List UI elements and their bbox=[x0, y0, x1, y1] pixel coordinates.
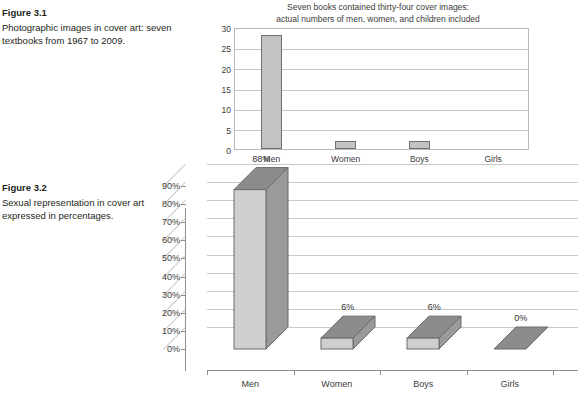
chart1-title-line1: Seven books contained thirty-four cover … bbox=[198, 2, 558, 14]
chart2-y-tick-mark bbox=[181, 222, 186, 223]
chart2-y-tick-mark bbox=[181, 277, 186, 278]
chart2-y-tick-label: 60% bbox=[162, 235, 180, 245]
chart2-y-tick-mark bbox=[181, 331, 186, 332]
chart2-x-tick-mark bbox=[467, 370, 468, 375]
chart1-bar-women bbox=[335, 141, 356, 149]
chart2-x-tick-mark bbox=[553, 370, 554, 375]
chart2-x-tick-mark bbox=[294, 370, 295, 375]
chart2-data-label-boys: 6% bbox=[428, 302, 441, 312]
chart2-data-label-girls: 0% bbox=[514, 313, 527, 323]
chart1-y-tick-label: 25 bbox=[222, 44, 231, 54]
chart2-y-tick-label: 70% bbox=[162, 217, 180, 227]
chart2-y-tick-label: 50% bbox=[162, 253, 180, 263]
chart2-bar-top-face bbox=[494, 327, 548, 349]
chart2-y-tick-mark bbox=[181, 258, 186, 259]
chart2-y-tick-mark bbox=[181, 240, 186, 241]
chart1-x-label-women: Women bbox=[331, 154, 360, 164]
chart-percentages: 0%10%20%30%40%50%60%70%80%90%88%Men6%Wom… bbox=[140, 178, 569, 398]
chart1-y-tick-label: 0 bbox=[226, 146, 231, 156]
chart2-y-tick-label: 80% bbox=[162, 199, 180, 209]
chart1-y-tick-label: 10 bbox=[222, 105, 231, 115]
chart2-y-tick-label: 30% bbox=[162, 290, 180, 300]
chart2-y-tick-label: 0% bbox=[167, 344, 180, 354]
chart2-x-label-women: Women bbox=[321, 379, 352, 389]
chart2-x-tick-mark bbox=[380, 370, 381, 375]
chart2-data-label-women: 6% bbox=[341, 302, 354, 312]
chart1-y-tick-label: 30 bbox=[222, 24, 231, 34]
chart2-y-tick-mark bbox=[181, 204, 186, 205]
chart1-x-label-boys: Boys bbox=[410, 154, 429, 164]
chart2-x-tick-mark bbox=[207, 370, 208, 375]
chart2-x-label-boys: Boys bbox=[413, 379, 433, 389]
chart1-y-tick-label: 20 bbox=[222, 65, 231, 75]
chart2-bar-side-face bbox=[266, 168, 288, 349]
chart2-y-tick-label: 10% bbox=[162, 326, 180, 336]
chart2-y-tick-mark bbox=[181, 295, 186, 296]
chart2-y-tick-label: 40% bbox=[162, 272, 180, 282]
chart2-plot-area: 0%10%20%30%40%50%60%70%80%90%88%Men6%Wom… bbox=[185, 186, 553, 371]
chart1-y-tick-label: 5 bbox=[226, 126, 231, 136]
chart1-bar-boys bbox=[409, 141, 430, 149]
chart2-data-label-men: 88% bbox=[252, 154, 270, 164]
chart2-bar-boys bbox=[407, 186, 461, 371]
chart2-x-label-girls: Girls bbox=[501, 379, 520, 389]
chart2-y-tick-mark bbox=[181, 313, 186, 314]
chart2-bar-girls bbox=[494, 186, 548, 371]
chart2-y-tick-mark bbox=[181, 186, 186, 187]
chart2-x-label-men: Men bbox=[241, 379, 259, 389]
chart2-bar-front-face bbox=[407, 338, 439, 349]
chart1-y-tick-label: 15 bbox=[222, 85, 231, 95]
figure-3-1-caption: Figure 3.1 Photographic images in cover … bbox=[2, 6, 172, 48]
chart1-plot-area: 051015202530MenWomenBoysGirls bbox=[234, 28, 529, 150]
chart-actual-numbers: Seven books contained thirty-four cover … bbox=[198, 2, 558, 170]
chart2-bar-front-face bbox=[234, 190, 266, 349]
chart2-bar-men bbox=[234, 186, 288, 371]
chart2-y-axis bbox=[185, 208, 186, 371]
chart1-bar-men bbox=[261, 35, 282, 149]
chart2-y-tick-label: 20% bbox=[162, 308, 180, 318]
chart2-gridline bbox=[207, 164, 578, 165]
chart2-y-tick-mark bbox=[181, 349, 186, 350]
chart1-title: Seven books contained thirty-four cover … bbox=[198, 2, 558, 25]
chart2-bar-women bbox=[321, 186, 375, 371]
chart2-bar-front-face bbox=[321, 338, 353, 349]
chart2-y-tick-label: 90% bbox=[162, 181, 180, 191]
figure-3-1-text: Photographic images in cover art: seven … bbox=[2, 21, 172, 48]
chart1-x-label-girls: Girls bbox=[484, 154, 501, 164]
figure-3-1-label: Figure 3.1 bbox=[2, 6, 172, 20]
chart1-title-line2: actual numbers of men, women, and childr… bbox=[198, 14, 558, 26]
